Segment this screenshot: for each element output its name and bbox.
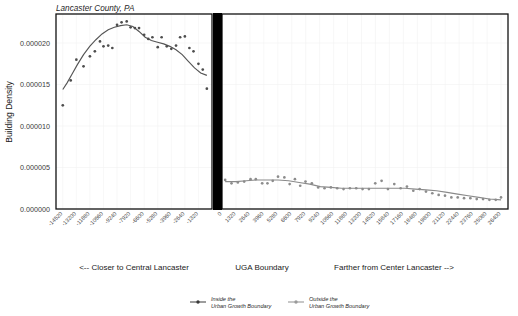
trend-line-inside (63, 25, 207, 90)
data-point-inside (111, 47, 114, 50)
x-tick-label: -13200 (60, 210, 77, 227)
data-point-inside (175, 44, 178, 47)
data-point-inside (201, 68, 204, 71)
data-point-outside (361, 188, 364, 191)
data-point-outside (374, 182, 377, 185)
data-point-inside (192, 50, 195, 53)
x-tick-label: 5280 (265, 210, 278, 223)
legend-item-inside: Inside the Urban Growth Boundary (190, 296, 273, 309)
data-point-outside (330, 186, 333, 189)
data-point-inside (143, 33, 146, 36)
y-tick-label: 0.000020 (20, 39, 50, 48)
x-tick-label: 7920 (293, 210, 306, 223)
x-tick-label: 17160 (389, 210, 404, 225)
data-point-outside (243, 180, 246, 183)
data-point-outside (475, 198, 478, 201)
data-point-inside (160, 36, 163, 39)
data-point-outside (323, 187, 326, 190)
y-tick-label: 0.000000 (20, 205, 50, 214)
y-axis-label: Building Density (4, 80, 14, 142)
data-point-outside (425, 190, 428, 193)
data-point-inside (138, 27, 141, 30)
data-point-inside (82, 65, 85, 68)
data-point-outside (355, 187, 358, 190)
data-point-outside (387, 188, 390, 191)
data-point-inside (165, 45, 168, 48)
x-tick-label: 1320 (224, 210, 237, 223)
data-point-inside (69, 79, 72, 82)
y-tick-label: 0.000005 (20, 163, 50, 172)
data-series-layer (61, 20, 502, 201)
data-point-inside (89, 55, 92, 58)
x-tick-label: 11880 (333, 210, 348, 225)
x-tick-label: 18480 (403, 210, 418, 225)
x-tick-label: -3960 (158, 210, 172, 224)
legend-point-outside-icon (294, 300, 297, 303)
data-point-outside (431, 192, 434, 195)
x-tick-label: 10560 (319, 210, 334, 225)
x-tick-label: -1320 (185, 210, 199, 224)
x-tick-label: 26400 (486, 210, 501, 225)
x-tick-label: 21120 (431, 210, 446, 225)
data-point-inside (107, 44, 110, 47)
data-point-inside (184, 35, 187, 38)
x-tick-label: -9240 (103, 210, 117, 224)
data-point-outside (412, 189, 415, 192)
x-tick-label: 15840 (375, 210, 390, 225)
data-point-outside (349, 187, 352, 190)
data-point-outside (310, 182, 313, 185)
data-point-inside (179, 36, 182, 39)
y-tick-labels: 0.0000000.0000050.0000100.0000150.000020 (20, 39, 50, 214)
data-point-outside (266, 182, 269, 185)
legend-point-inside-icon (196, 300, 199, 303)
data-point-outside (336, 187, 339, 190)
x-tick-label: 0 (216, 210, 222, 216)
x-tick-label: 14520 (361, 210, 376, 225)
data-point-inside (156, 46, 159, 49)
data-point-inside (134, 27, 137, 30)
x-tick-label: -7920 (117, 210, 131, 224)
data-point-outside (261, 182, 264, 185)
data-point-outside (482, 198, 485, 201)
x-tick-label: 3960 (252, 210, 265, 223)
data-point-outside (393, 183, 396, 186)
data-point-outside (294, 178, 297, 181)
x-tick-label: 23760 (459, 210, 474, 225)
data-point-inside (61, 104, 64, 107)
x-tick-label: -10560 (88, 210, 105, 227)
data-point-outside (444, 194, 447, 197)
x-tick-label: 25080 (473, 210, 488, 225)
data-point-inside (197, 62, 200, 65)
x-tick-labels: -14520-13200-11880-10560-9240-7920-6600-… (47, 210, 502, 227)
data-point-outside (418, 188, 421, 191)
data-point-inside (94, 50, 97, 53)
data-point-outside (224, 179, 227, 182)
data-point-outside (277, 175, 280, 178)
data-point-outside (230, 182, 233, 185)
data-point-inside (116, 23, 119, 26)
chart-title: Lancaster County, PA (56, 4, 135, 13)
x-tick-label: 19800 (417, 210, 432, 225)
data-point-outside (494, 199, 497, 202)
data-point-outside (317, 186, 320, 189)
uga-boundary-divider (213, 13, 222, 210)
data-point-inside (102, 45, 105, 48)
legend: Inside the Urban Growth Boundary Outside… (190, 296, 371, 309)
data-point-outside (249, 178, 252, 181)
x-tick-label: 13200 (347, 210, 362, 225)
data-point-outside (304, 180, 307, 183)
data-point-outside (380, 179, 383, 182)
data-point-inside (170, 48, 173, 51)
legend-label-inside-line2: Urban Growth Boundary (211, 303, 273, 309)
legend-item-outside: Outside the Urban Growth Boundary (288, 296, 371, 309)
data-point-inside (99, 40, 102, 43)
data-point-outside (368, 188, 371, 191)
y-tick-label: 0.000015 (20, 80, 50, 89)
footer-left-label: <-- Closer to Central Lancaster (79, 263, 189, 272)
data-point-outside (254, 178, 257, 181)
data-point-outside (288, 183, 291, 186)
data-point-outside (406, 185, 409, 188)
scatter-plot-svg: Lancaster County, PA Building Density 0.… (0, 0, 518, 316)
data-point-inside (120, 21, 123, 24)
x-tick-label: -2640 (171, 210, 185, 224)
